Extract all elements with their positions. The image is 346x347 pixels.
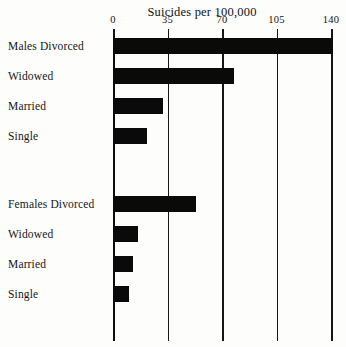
tick-mark-0 (113, 29, 115, 36)
tick-mark-35 (168, 29, 170, 36)
category-label: Females Divorced (0, 198, 113, 210)
category-label: Widowed (0, 228, 113, 240)
tick-mark-140 (331, 29, 333, 36)
x-tick-label-105: 105 (268, 14, 285, 25)
category-label: Widowed (0, 70, 113, 82)
plot-area: 03570105140 (113, 36, 346, 341)
x-tick-label-35: 35 (162, 14, 173, 25)
gridline-140 (331, 36, 333, 341)
category-label: Males Divorced (0, 40, 113, 52)
bar (113, 68, 234, 84)
x-tick-label-70: 70 (216, 14, 227, 25)
category-label-column: Males DivorcedWidowedMarriedSingleFemale… (0, 36, 113, 341)
suicides-bar-chart: Suicides per 100,000 Males DivorcedWidow… (0, 0, 346, 347)
bar (113, 256, 133, 272)
category-label: Single (0, 130, 113, 142)
bar (113, 226, 138, 242)
category-label: Married (0, 258, 113, 270)
x-tick-label-140: 140 (323, 14, 340, 25)
bar (113, 196, 196, 212)
bar (113, 286, 129, 302)
bar (113, 98, 163, 114)
category-label: Single (0, 288, 113, 300)
gridline-105 (277, 36, 279, 341)
x-tick-label-0: 0 (110, 14, 116, 25)
bar (113, 38, 333, 54)
tick-mark-105 (277, 29, 279, 36)
category-label: Married (0, 100, 113, 112)
tick-mark-70 (222, 29, 224, 36)
bar (113, 128, 147, 144)
